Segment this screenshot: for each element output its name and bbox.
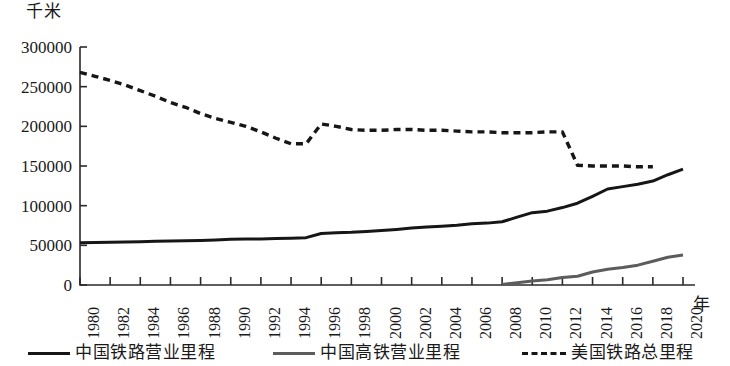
x-tick-label: 1980 [86, 307, 102, 339]
chart-svg [0, 0, 730, 300]
x-axis-unit-label: 年 [693, 296, 710, 314]
legend-item-2[interactable]: 美国铁路总里程 [522, 344, 694, 362]
y-tick-label: 0 [0, 277, 72, 294]
series-line-2 [80, 72, 653, 166]
x-tick-label: 1988 [207, 307, 223, 339]
y-tick-label: 50000 [0, 237, 72, 254]
y-tick-label: 300000 [0, 39, 72, 56]
x-tick-label: 1990 [237, 307, 253, 339]
chart-legend: 中国铁路营业里程中国高铁营业里程美国铁路总里程 [0, 340, 730, 366]
x-tick-label: 1996 [327, 307, 343, 339]
legend-label: 中国铁路营业里程 [75, 344, 215, 362]
x-tick-label: 1992 [267, 307, 283, 339]
x-tick-label: 2010 [538, 307, 554, 339]
y-axis-ticks [80, 47, 87, 285]
x-tick-label: 1994 [297, 307, 313, 339]
legend-item-0[interactable]: 中国铁路营业里程 [28, 344, 215, 362]
x-tick-label: 2016 [629, 307, 645, 339]
x-tick-label: 2018 [659, 307, 675, 339]
y-tick-label: 150000 [0, 158, 72, 175]
y-tick-label: 250000 [0, 79, 72, 96]
x-tick-label: 1984 [146, 307, 162, 339]
y-tick-label: 200000 [0, 118, 72, 135]
x-tick-label: 2000 [388, 307, 404, 339]
x-tick-label: 1986 [176, 307, 192, 339]
legend-item-1[interactable]: 中国高铁营业里程 [273, 344, 460, 362]
x-tick-label: 2012 [568, 307, 584, 339]
legend-label: 美国铁路总里程 [571, 344, 694, 362]
legend-swatch-icon [522, 352, 566, 355]
plot-area: 050000100000150000200000250000300000 198… [0, 0, 730, 300]
series-line-0 [80, 169, 683, 243]
x-tick-label: 1998 [357, 307, 373, 339]
x-tick-label: 2014 [599, 307, 615, 339]
x-tick-label: 1982 [116, 307, 132, 339]
legend-swatch-icon [28, 352, 70, 355]
x-tick-label: 2008 [508, 307, 524, 339]
x-tick-label: 2002 [418, 307, 434, 339]
y-tick-label: 100000 [0, 198, 72, 215]
legend-label: 中国高铁营业里程 [320, 344, 460, 362]
x-axis-ticks [80, 277, 683, 285]
legend-swatch-icon [273, 352, 315, 355]
x-tick-label: 2006 [478, 307, 494, 339]
x-tick-label: 2004 [448, 307, 464, 339]
railway-mileage-chart: 千米 050000100000150000200000250000300000 … [0, 0, 730, 366]
